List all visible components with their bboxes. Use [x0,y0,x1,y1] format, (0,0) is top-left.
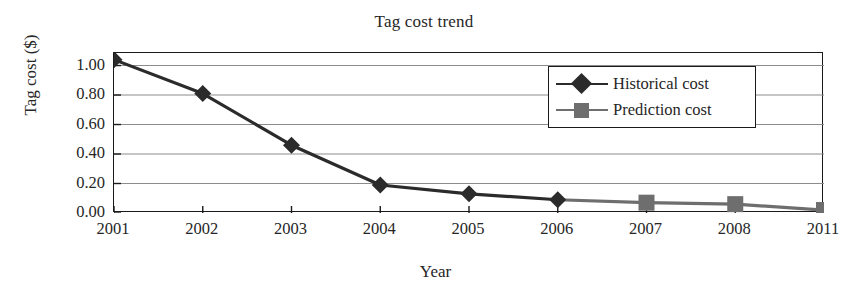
y-tick-label: 0.80 [43,84,105,104]
x-tick-label: 2007 [607,219,685,239]
x-axis-title: Year [113,262,758,282]
x-tick-label: 2001 [74,219,152,239]
chart-figure: Tag cost trend Tag cost ($) 0.000.200.40… [0,0,848,302]
x-tick-label: 2005 [429,219,507,239]
square-marker-icon [556,100,608,120]
chart-title: Tag cost trend [0,12,848,32]
legend-item-prediction: Prediction cost [549,97,755,123]
x-tick-label: 2008 [695,219,773,239]
chart-legend: Historical cost Prediction cost [548,66,756,128]
x-tick-label: 2003 [252,219,330,239]
legend-label-historical: Historical cost [608,76,709,93]
x-tick-label: 2006 [518,219,596,239]
x-tick-label: 2002 [163,219,241,239]
x-tick-label: 2004 [340,219,418,239]
legend-label-prediction: Prediction cost [608,102,712,119]
y-tick-label: 0.40 [43,143,105,163]
y-tick-label: 1.00 [43,55,105,75]
y-tick-label: 0.20 [43,173,105,193]
y-axis-title: Tag cost ($) [20,0,42,150]
legend-item-historical: Historical cost [549,71,755,97]
x-axis-ticks [114,206,824,213]
x-tick-label: 2011 [784,219,848,239]
y-axis-ticks [114,66,121,213]
diamond-marker-icon [556,74,608,94]
y-tick-label: 0.60 [43,114,105,134]
